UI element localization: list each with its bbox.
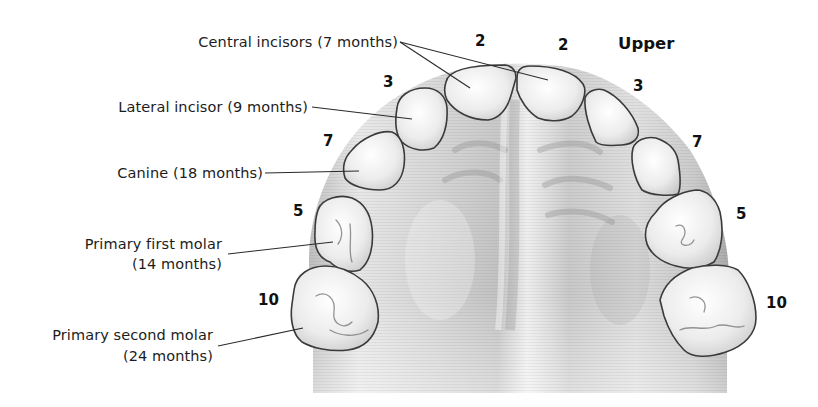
leader-second-molar [218,328,303,346]
tooth-lateral-incisor-left [396,88,447,150]
dental-diagram: Upper Central incisors (7 months) Latera… [0,0,818,407]
number-lateral-incisor-right: 3 [633,77,643,95]
number-second-molar-left: 10 [258,291,279,309]
number-canine-left: 7 [323,132,333,150]
label-second-molar-name: Primary second molar [52,326,213,344]
number-first-molar-right: 5 [736,205,746,223]
number-central-incisor-left: 2 [475,32,485,50]
number-canine-right: 7 [692,133,702,151]
number-lateral-incisor-left: 3 [383,73,393,91]
number-second-molar-right: 10 [766,294,787,312]
label-lateral-incisor: Lateral incisor (9 months) [118,98,308,116]
number-central-incisor-right: 2 [558,36,568,54]
label-canine: Canine (18 months) [117,164,263,182]
diagram-title: Upper [618,34,674,53]
label-first-molar-name: Primary first molar [85,235,222,253]
label-second-molar-age: (24 months) [123,347,213,365]
label-first-molar-age: (14 months) [132,255,222,273]
number-first-molar-left: 5 [293,202,303,220]
label-central-incisors: Central incisors (7 months) [198,33,398,51]
upper-jaw-illustration [0,0,818,407]
